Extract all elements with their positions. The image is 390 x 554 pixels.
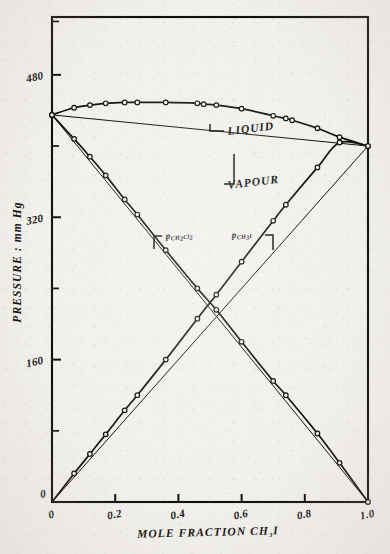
svg-text:MOLE FRACTION CH3I: MOLE FRACTION CH3I [136,524,279,541]
pressure-composition-chart: 16032048000.20.40.60.81.0 LIQUID VAPOUR … [0,0,390,554]
data-point-marker [315,165,320,170]
series-line-p-ch3i-raoult [52,146,368,502]
data-point-marker [195,316,200,321]
data-point-marker [72,105,77,110]
data-point-marker [122,100,127,105]
data-point-marker [290,118,295,123]
y-tick-label: 480 [24,69,45,85]
data-point-marker [195,101,200,106]
data-point-marker [239,106,244,111]
data-point-marker [271,379,276,384]
x-tick-label: 0.2 [106,507,123,522]
data-point-marker [214,292,219,297]
x-tick-label: 0.4 [169,507,186,522]
p-ch2cl2-label: pCH2Cl2 [164,228,193,243]
axes-frame [52,17,368,502]
data-point-marker [163,357,168,362]
data-point-marker [337,461,342,466]
p-ch3i-sub-i: I [248,232,253,239]
data-point-marker [163,248,168,253]
data-point-marker [72,471,77,476]
data-point-marker [284,116,289,121]
data-point-marker [135,393,140,398]
data-point-marker [195,286,200,291]
data-point-marker [103,432,108,437]
plot-frame [52,17,368,502]
data-point-marker [366,500,371,505]
data-point-marker [50,113,55,118]
origin-label: 0 [39,487,47,500]
svg-text:pCH3I: pCH3I [230,228,253,242]
data-point-marker [135,212,140,217]
p-ch3i-label: pCH3I [230,228,253,242]
series-line-p-ch2cl2-raoult [52,115,368,502]
data-point-marker [284,202,289,207]
svg-text:pCH2Cl2: pCH2Cl2 [164,228,193,243]
data-point-marker [103,173,108,178]
liquid-leader [210,124,224,131]
data-series-layer [52,102,368,502]
x-axis-title-main: MOLE FRACTION CH [136,524,269,539]
x-tick-label: 0.6 [232,507,249,522]
data-point-marker [366,144,371,149]
y-tick-label: 320 [24,211,45,227]
x-axis-title: MOLE FRACTION CH3I [136,524,279,541]
x-tick-label: 0 [47,508,55,521]
p-ch3i-leader [265,235,273,250]
data-point-marker [337,135,342,140]
data-point-marker [284,393,289,398]
data-point-marker [239,259,244,264]
vapour-liquid-equilibrium-figure: 16032048000.20.40.60.81.0 LIQUID VAPOUR … [0,0,390,554]
data-point-marker [72,137,77,142]
data-point-marker [271,218,276,223]
data-point-marker [88,452,93,457]
data-point-marker [163,100,168,105]
data-point-marker [239,340,244,345]
y-tick-label: 160 [25,354,45,369]
x-tick-label: 1.0 [359,507,376,522]
data-point-marker [103,101,108,106]
data-point-marker [315,126,320,131]
y-axis-ticks [52,21,61,502]
data-point-marker [337,140,342,145]
x-axis-ticks [115,494,305,502]
data-point-marker [214,307,219,312]
p-ch2cl2-sub-2b: 2 [188,233,193,240]
x-tick-label: 0.8 [296,507,313,522]
data-point-marker [88,103,93,108]
x-axis-title-tail: I [272,524,279,536]
data-point-marker [271,113,276,118]
y-axis-title: PRESSURE : mm Hg [11,201,24,322]
data-point-marker [135,100,140,105]
data-point-marker [201,102,206,107]
data-point-marker [88,154,93,159]
data-point-marker [122,197,127,202]
data-point-marker [122,408,127,413]
data-point-marker [315,431,320,436]
data-point-marker [214,103,219,108]
